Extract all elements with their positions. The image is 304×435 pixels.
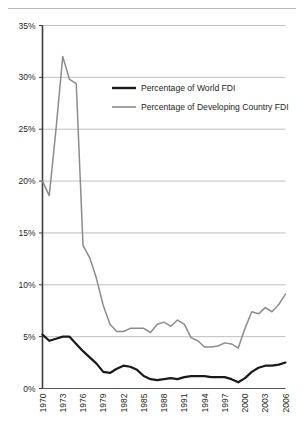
- x-tick-label: 1982: [119, 393, 129, 412]
- gridline-group: [43, 26, 286, 389]
- legend-label: Percentage of Developing Country FDI: [141, 102, 289, 112]
- y-tick-label: 0%: [23, 384, 36, 394]
- y-tick-label: 25%: [18, 124, 35, 134]
- chart-legend: Percentage of World FDIPercentage of Dev…: [112, 83, 289, 112]
- x-tick-label: 2000: [240, 393, 250, 412]
- y-tick-label: 10%: [18, 280, 35, 290]
- y-tick-label: 35%: [18, 21, 35, 31]
- x-tick-label: 1988: [159, 393, 169, 412]
- x-tick-label: 1976: [78, 393, 88, 412]
- y-tick-label: 5%: [23, 332, 36, 342]
- x-tick-label: 1973: [58, 393, 68, 412]
- x-tick-label: 1970: [38, 393, 48, 412]
- y-tick-label: 30%: [18, 72, 35, 82]
- y-tick-label: 20%: [18, 176, 35, 186]
- x-tick-label: 1979: [98, 393, 108, 412]
- legend-label: Percentage of World FDI: [141, 83, 235, 93]
- x-tick-label: 1994: [200, 393, 210, 412]
- x-tick-label: 2003: [260, 393, 270, 412]
- top-divider-rule: [8, 8, 296, 9]
- x-tick-label: 1985: [139, 393, 149, 412]
- series-line-developing-country-fdi: [43, 57, 286, 348]
- x-tick-label: 1991: [179, 393, 189, 412]
- series-line-world-fdi: [43, 335, 286, 383]
- x-tick-group: 1970197319761979198219851988199119941997…: [38, 393, 291, 412]
- chart-canvas: 0%5%10%15%20%25%30%35% 19701973197619791…: [0, 0, 304, 435]
- x-tick-label: 1997: [220, 393, 230, 412]
- y-tick-label: 15%: [18, 228, 35, 238]
- x-tick-label: 2006: [281, 393, 291, 412]
- fdi-line-chart: 0%5%10%15%20%25%30%35% 19701973197619791…: [0, 0, 304, 435]
- y-tick-group: 0%5%10%15%20%25%30%35%: [18, 21, 42, 394]
